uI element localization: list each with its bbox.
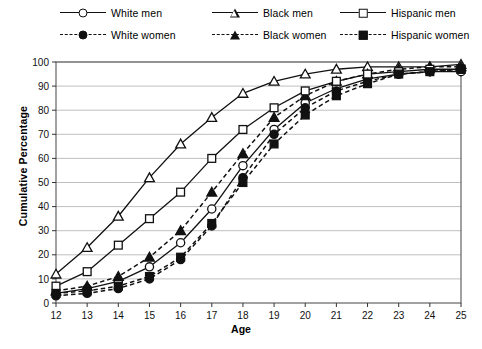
legend-symbol xyxy=(212,6,258,20)
datapoint-hispanic-women-age-20 xyxy=(301,111,309,119)
x-axis: 1213141516171819202122232425 xyxy=(50,303,467,321)
chart-legend: White menWhite womenBlack menBlack women… xyxy=(0,6,482,54)
legend-symbol xyxy=(60,28,106,42)
datapoint-hispanic-men-age-22 xyxy=(364,70,372,78)
y-tick-label-60: 60 xyxy=(38,153,50,164)
legend-symbol xyxy=(212,28,258,42)
legend-label: Black women xyxy=(263,29,327,41)
datapoint-hispanic-women-age-22 xyxy=(364,80,372,88)
datapoint-hispanic-men-age-14 xyxy=(114,241,122,249)
datapoint-hispanic-men-age-18 xyxy=(239,126,247,134)
open-square-marker-icon xyxy=(359,9,368,18)
legend-label: Hispanic men xyxy=(391,7,456,19)
datapoint-hispanic-men-age-16 xyxy=(177,188,185,196)
datapoint-hispanic-women-age-23 xyxy=(395,70,403,78)
x-tick-label-19: 19 xyxy=(269,310,281,321)
x-tick-label-23: 23 xyxy=(393,310,405,321)
legend-item-hispanic-men: Hispanic men xyxy=(340,6,456,20)
datapoint-hispanic-women-age-15 xyxy=(146,273,154,281)
datapoint-hispanic-men-age-13 xyxy=(83,268,91,276)
datapoint-black-men-age-18 xyxy=(238,89,248,98)
x-axis-title: Age xyxy=(0,323,482,335)
series-hispanic-women xyxy=(52,65,465,297)
x-tick-label-13: 13 xyxy=(82,310,94,321)
y-tick-label-10: 10 xyxy=(38,274,50,285)
y-tick-label-0: 0 xyxy=(43,298,49,309)
y-tick-label-90: 90 xyxy=(38,81,50,92)
y-tick-label-80: 80 xyxy=(38,105,50,116)
legend-item-black-women: Black women xyxy=(212,28,327,42)
series-black-women xyxy=(51,62,466,295)
legend-symbol xyxy=(60,6,106,20)
legend-symbol xyxy=(340,6,386,20)
datapoint-black-men-age-17 xyxy=(207,113,217,122)
x-tick-label-16: 16 xyxy=(175,310,187,321)
series-line-hispanic-men xyxy=(56,69,461,286)
x-tick-label-12: 12 xyxy=(50,310,62,321)
datapoint-hispanic-men-age-20 xyxy=(301,87,309,95)
datapoint-hispanic-men-age-15 xyxy=(146,215,154,223)
datapoint-white-men-age-18 xyxy=(239,162,247,170)
datapoint-hispanic-men-age-21 xyxy=(332,77,340,85)
legend-item-white-women: White women xyxy=(60,28,176,42)
x-tick-label-21: 21 xyxy=(331,310,343,321)
datapoint-white-men-age-16 xyxy=(177,239,185,247)
y-tick-label-20: 20 xyxy=(38,249,50,260)
y-tick-label-30: 30 xyxy=(38,225,50,236)
datapoint-hispanic-women-age-25 xyxy=(457,65,465,73)
legend-item-hispanic-women: Hispanic women xyxy=(340,28,469,42)
x-tick-label-25: 25 xyxy=(455,310,467,321)
chart-area: 0102030405060708090100121314151617181920… xyxy=(0,52,482,349)
y-tick-label-70: 70 xyxy=(38,129,50,140)
y-axis-title: Cumulative Percentage xyxy=(17,91,29,241)
datapoint-white-men-age-15 xyxy=(145,263,153,271)
datapoint-white-men-age-17 xyxy=(208,205,216,213)
datapoint-hispanic-women-age-16 xyxy=(177,253,185,261)
datapoint-black-women-age-19 xyxy=(269,113,279,122)
datapoint-black-women-age-18 xyxy=(238,149,248,158)
x-tick-label-14: 14 xyxy=(113,310,125,321)
datapoint-hispanic-women-age-21 xyxy=(332,92,340,100)
datapoint-hispanic-women-age-17 xyxy=(208,220,216,228)
y-tick-label-40: 40 xyxy=(38,201,50,212)
datapoint-hispanic-men-age-17 xyxy=(208,155,216,163)
y-axis: 0102030405060708090100 xyxy=(32,57,56,309)
filled-circle-marker-icon xyxy=(79,31,88,40)
y-tick-label-50: 50 xyxy=(38,177,50,188)
datapoint-hispanic-women-age-13 xyxy=(83,287,91,295)
x-tick-label-18: 18 xyxy=(237,310,249,321)
filled-triangle-marker-icon xyxy=(230,31,240,40)
legend-label: White men xyxy=(111,7,162,19)
legend-label: Black men xyxy=(263,7,313,19)
x-tick-label-24: 24 xyxy=(424,310,436,321)
datapoint-hispanic-men-age-19 xyxy=(270,104,278,112)
legend-symbol xyxy=(340,28,386,42)
open-circle-marker-icon xyxy=(79,9,88,18)
series-line-hispanic-women xyxy=(56,69,461,293)
y-tick-label-100: 100 xyxy=(32,57,49,68)
datapoint-hispanic-women-age-19 xyxy=(270,140,278,148)
datapoint-black-women-age-14 xyxy=(113,272,123,281)
filled-square-marker-icon xyxy=(359,31,368,40)
datapoint-hispanic-women-age-24 xyxy=(426,68,434,76)
x-tick-label-15: 15 xyxy=(144,310,156,321)
series-black-men xyxy=(51,60,466,278)
datapoint-hispanic-women-age-18 xyxy=(239,179,247,187)
datapoint-hispanic-women-age-14 xyxy=(114,282,122,290)
series-hispanic-men xyxy=(52,65,465,290)
legend-label: White women xyxy=(111,29,176,41)
line-chart-plot: 0102030405060708090100121314151617181920… xyxy=(0,52,482,349)
x-tick-label-20: 20 xyxy=(300,310,312,321)
legend-item-black-men: Black men xyxy=(212,6,313,20)
legend-item-white-men: White men xyxy=(60,6,162,20)
datapoint-hispanic-women-age-12 xyxy=(52,289,60,297)
x-tick-label-17: 17 xyxy=(206,310,218,321)
open-triangle-marker-icon xyxy=(230,9,240,18)
datapoint-white-women-age-19 xyxy=(270,130,278,138)
x-tick-label-22: 22 xyxy=(362,310,374,321)
legend-label: Hispanic women xyxy=(391,29,469,41)
series-line-black-women xyxy=(56,67,461,291)
